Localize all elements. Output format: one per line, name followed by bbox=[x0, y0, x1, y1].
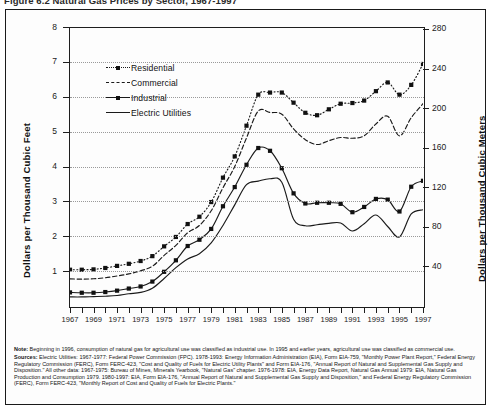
data-point-marker bbox=[221, 176, 225, 180]
data-point-marker bbox=[221, 204, 225, 208]
data-point-marker bbox=[268, 90, 272, 94]
data-point-marker bbox=[103, 290, 107, 294]
y-tick-label-left: 6 bbox=[31, 92, 57, 101]
data-point-marker bbox=[409, 185, 413, 189]
x-tick-mark bbox=[141, 308, 142, 313]
data-point-marker bbox=[209, 227, 213, 231]
x-tick-label: 1971 bbox=[109, 315, 126, 324]
data-point-marker bbox=[233, 154, 237, 158]
x-tick-mark bbox=[329, 308, 330, 313]
data-point-marker bbox=[374, 89, 378, 93]
x-tick-label: 1981 bbox=[226, 315, 243, 324]
x-tick-mark bbox=[258, 308, 259, 313]
y-tick-label-right: 280 bbox=[432, 24, 462, 33]
data-point-marker bbox=[362, 98, 366, 102]
data-point-marker bbox=[197, 238, 201, 242]
x-tick-mark bbox=[211, 308, 212, 313]
x-tick-label: 1973 bbox=[132, 315, 149, 324]
y-tick-label-right: 160 bbox=[432, 143, 462, 152]
x-tick-mark bbox=[105, 308, 106, 313]
data-point-marker bbox=[339, 102, 343, 106]
series-electric-utilities bbox=[70, 178, 423, 297]
legend: ResidentialCommercialIndustrialElectric … bbox=[105, 60, 235, 120]
x-tick-mark bbox=[94, 308, 95, 313]
x-tick-mark bbox=[341, 308, 342, 313]
x-tick-mark bbox=[399, 308, 400, 313]
x-tick-mark bbox=[129, 308, 130, 313]
y-tick-label-left: 4 bbox=[31, 162, 57, 171]
figure-title-strip: Figure 6.2 Natural Gas Prices by Sector,… bbox=[0, 0, 492, 9]
x-tick-mark bbox=[199, 308, 200, 313]
data-point-marker bbox=[233, 185, 237, 189]
legend-marker-icon bbox=[116, 66, 120, 70]
legend-label: Industrial bbox=[131, 93, 167, 103]
data-point-marker bbox=[244, 124, 248, 128]
data-point-marker bbox=[409, 83, 413, 87]
x-tick-mark bbox=[176, 308, 177, 313]
data-point-marker bbox=[150, 254, 154, 258]
data-point-marker bbox=[174, 258, 178, 262]
x-tick-label: 1979 bbox=[203, 315, 220, 324]
x-tick-mark bbox=[388, 308, 389, 313]
x-tick-label: 1977 bbox=[179, 315, 196, 324]
data-point-marker bbox=[186, 222, 190, 226]
data-point-marker bbox=[327, 107, 331, 111]
legend-label: Electric Utilities bbox=[131, 108, 191, 118]
data-point-marker bbox=[268, 149, 272, 153]
y-tick-label-left: 2 bbox=[31, 232, 57, 241]
x-tick-mark bbox=[352, 308, 353, 313]
data-point-marker bbox=[127, 262, 131, 266]
data-point-marker bbox=[115, 289, 119, 293]
series-line bbox=[70, 104, 423, 279]
x-tick-label: 1997 bbox=[415, 315, 432, 324]
legend-item-industrial: Industrial bbox=[105, 90, 235, 105]
chart-region: Dollars per Thousand Cubic Feet Dollars … bbox=[6, 10, 487, 340]
x-tick-mark bbox=[164, 308, 165, 313]
data-point-marker bbox=[115, 264, 119, 268]
x-tick-label: 1985 bbox=[273, 315, 290, 324]
x-tick-mark bbox=[376, 308, 377, 313]
data-point-marker bbox=[350, 101, 354, 105]
x-tick-mark bbox=[70, 308, 71, 313]
data-point-marker bbox=[256, 146, 260, 150]
legend-item-commercial: Commercial bbox=[105, 75, 235, 90]
data-point-marker bbox=[291, 191, 295, 195]
x-tick-label: 1991 bbox=[344, 315, 361, 324]
x-tick-label: 1993 bbox=[367, 315, 384, 324]
gridline bbox=[70, 271, 424, 272]
x-tick-label: 1975 bbox=[156, 315, 173, 324]
y-tick-label-right: 200 bbox=[432, 104, 462, 113]
data-point-marker bbox=[280, 90, 284, 94]
x-tick-mark bbox=[82, 308, 83, 313]
x-tick-mark bbox=[305, 308, 306, 313]
x-tick-label: 1969 bbox=[85, 315, 102, 324]
x-tick-label: 1983 bbox=[250, 315, 267, 324]
x-tick-mark bbox=[282, 308, 283, 313]
y-tick-label-left: 3 bbox=[31, 197, 57, 206]
y-tick-label-left: 1 bbox=[31, 267, 57, 276]
y-tick-label-left: 5 bbox=[31, 127, 57, 136]
data-point-marker bbox=[421, 179, 423, 183]
data-point-marker bbox=[80, 291, 84, 295]
figure-frame: Dollars per Thousand Cubic Feet Dollars … bbox=[5, 9, 486, 405]
x-tick-label: 1967 bbox=[62, 315, 79, 324]
note-label: Note: bbox=[14, 346, 28, 352]
x-tick-mark bbox=[117, 308, 118, 313]
y-tick-label-right: 40 bbox=[432, 262, 462, 271]
x-tick-mark bbox=[188, 308, 189, 313]
gridline bbox=[70, 132, 424, 133]
data-point-marker bbox=[386, 80, 390, 84]
y-tick-label-right: 80 bbox=[432, 222, 462, 231]
x-tick-mark bbox=[411, 308, 412, 313]
data-point-marker bbox=[91, 291, 95, 295]
data-point-marker bbox=[362, 205, 366, 209]
data-point-marker bbox=[291, 101, 295, 105]
data-point-marker bbox=[303, 111, 307, 115]
data-point-marker bbox=[315, 113, 319, 117]
data-point-marker bbox=[70, 290, 72, 294]
data-point-marker bbox=[397, 209, 401, 213]
data-point-marker bbox=[139, 259, 143, 263]
sources-paragraph: Sources: Electric Utilities: 1967-1977: … bbox=[14, 354, 480, 386]
data-point-marker bbox=[127, 286, 131, 290]
x-tick-mark bbox=[364, 308, 365, 313]
